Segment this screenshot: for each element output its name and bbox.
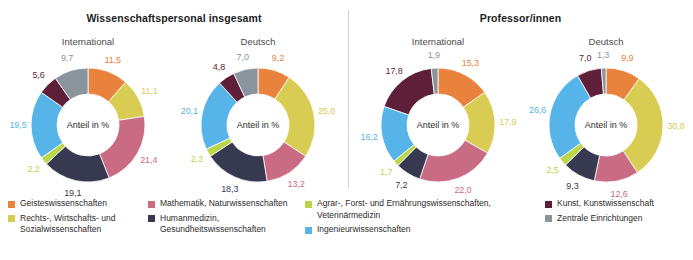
legend-label: Rechts-, Wirtschafts- und Sozialwissensc… <box>20 213 148 236</box>
donut-slice-label: 2,3 <box>191 154 203 164</box>
donut-center-label: Anteil in % <box>417 120 460 130</box>
donut-slice <box>275 77 315 156</box>
donut-slice-label: 2,5 <box>546 165 558 175</box>
donut-slice-label: 9,9 <box>621 53 633 63</box>
donut-slice-label: 7,0 <box>579 53 591 63</box>
legend-column: GeisteswissenschaftenRechts-, Wirtschaft… <box>8 198 148 239</box>
legend-label: Mathematik, Naturwissenschaften <box>160 198 288 210</box>
legend-item[interactable]: Kunst, Kunstwissenschaft <box>545 198 693 210</box>
legend-item[interactable]: Humanmedizin, Gesundheitswissenschaften <box>148 213 303 236</box>
donut-center-label: Anteil in % <box>237 120 280 130</box>
legend-swatch-icon <box>8 201 15 208</box>
panel-title: Professor/innen <box>348 12 693 24</box>
donut-slice-label: 11,5 <box>104 55 120 65</box>
panel-wissenschaftspersonal: Wissenschaftspersonal insgesamtInternati… <box>0 0 348 196</box>
donut-slice-label: 15,3 <box>462 58 479 68</box>
panel-professorinnen: Professor/innenInternationalAnteil in %1… <box>348 0 693 196</box>
donut-group-deutsch: DeutschAnteil in %9,930,812,69,32,526,67… <box>520 36 692 194</box>
donut-slice-label: 17,9 <box>499 117 516 127</box>
donut-slice-label: 19,1 <box>64 188 81 198</box>
legend-label: Zentrale Einrichtungen <box>557 213 643 225</box>
donut-center-label: Anteil in % <box>67 120 110 130</box>
legend-swatch-icon <box>148 201 155 208</box>
legend-column: Kunst, KunstwissenschaftZentrale Einrich… <box>545 198 693 227</box>
donut-slice <box>623 79 663 173</box>
legend-item[interactable]: Geisteswissenschaften <box>8 198 148 210</box>
donut-center-label: Anteil in % <box>585 120 628 130</box>
donut-subtitle: International <box>2 36 174 47</box>
chart-legend: GeisteswissenschaftenRechts-, Wirtschaft… <box>0 198 693 260</box>
legend-item[interactable]: Mathematik, Naturwissenschaften <box>148 198 303 210</box>
legend-swatch-icon <box>545 215 552 222</box>
donut-slice-label: 1,7 <box>380 167 392 177</box>
donut-slice-label: 17,8 <box>385 66 402 76</box>
donut-slice-label: 2,2 <box>28 164 40 174</box>
donut-slice-label: 7,0 <box>237 52 249 62</box>
donut-slice-label: 7,2 <box>395 180 407 190</box>
donut-chart: Anteil in %9,930,812,69,32,526,67,01,3 <box>531 58 681 192</box>
legend-item[interactable]: Ingenieurwissenschaften <box>305 224 545 236</box>
panel-divider <box>348 10 349 188</box>
donut-slice-label: 16,2 <box>361 132 378 142</box>
donut-group-deutsch: DeutschAnteil in %9,225,013,218,32,320,1… <box>172 36 344 194</box>
donut-slice-label: 18,3 <box>221 184 238 194</box>
legend-item[interactable]: Rechts-, Wirtschafts- und Sozialwissensc… <box>8 213 148 236</box>
donut-slice-label: 5,6 <box>32 70 44 80</box>
legend-swatch-icon <box>8 215 15 222</box>
donut-slice-label: 30,8 <box>667 121 684 131</box>
legend-label: Agrar-, Forst- und Ernährungswissenschaf… <box>317 198 545 221</box>
legend-swatch-icon <box>305 201 312 208</box>
panel-title: Wissenschaftspersonal insgesamt <box>0 12 348 24</box>
donut-slice-label: 1,3 <box>597 50 609 60</box>
donut-slice-label: 11,1 <box>141 86 157 96</box>
donut-chart: Anteil in %11,511,121,419,12,219,55,69,7 <box>13 58 163 192</box>
legend-column: Mathematik, NaturwissenschaftenHumanmedi… <box>148 198 303 239</box>
legend-swatch-icon <box>305 227 312 234</box>
donut-slice-label: 13,2 <box>288 179 305 189</box>
legend-label: Geisteswissenschaften <box>20 198 107 210</box>
donut-slice-label: 4,8 <box>213 62 225 72</box>
donut-slice-label: 20,1 <box>181 106 198 116</box>
donut-slice-label: 21,4 <box>140 155 157 165</box>
donut-slice-label: 25,0 <box>318 106 335 116</box>
donut-slice-label: 1,9 <box>428 50 440 60</box>
legend-column: Agrar-, Forst- und Ernährungswissenschaf… <box>305 198 545 239</box>
donut-group-international: InternationalAnteil in %11,511,121,419,1… <box>2 36 174 194</box>
donut-slice-label: 19,5 <box>9 120 26 130</box>
donut-subtitle: International <box>352 36 524 47</box>
donut-panels: Wissenschaftspersonal insgesamtInternati… <box>0 0 693 196</box>
donut-slice-label: 22,0 <box>454 185 471 195</box>
legend-swatch-icon <box>545 201 552 208</box>
donut-chart: Anteil in %9,225,013,218,32,320,14,87,0 <box>183 58 333 192</box>
donut-chart: Anteil in %15,317,922,07,21,716,217,81,9 <box>363 58 513 192</box>
legend-label: Kunst, Kunstwissenschaft <box>557 198 654 210</box>
donut-group-international: InternationalAnteil in %15,317,922,07,21… <box>352 36 524 194</box>
donut-slice-label: 9,2 <box>272 53 284 63</box>
donut-subtitle: Deutsch <box>520 36 692 47</box>
legend-swatch-icon <box>148 215 155 222</box>
legend-item[interactable]: Zentrale Einrichtungen <box>545 213 693 225</box>
donut-slice-label: 9,3 <box>566 181 578 191</box>
donut-slice-label: 9,7 <box>61 53 73 63</box>
legend-item[interactable]: Agrar-, Forst- und Ernährungswissenschaf… <box>305 198 545 221</box>
donut-slice-label: 26,6 <box>529 105 546 115</box>
legend-label: Ingenieurwissenschaften <box>317 224 411 236</box>
donut-subtitle: Deutsch <box>172 36 344 47</box>
legend-label: Humanmedizin, Gesundheitswissenschaften <box>160 213 303 236</box>
